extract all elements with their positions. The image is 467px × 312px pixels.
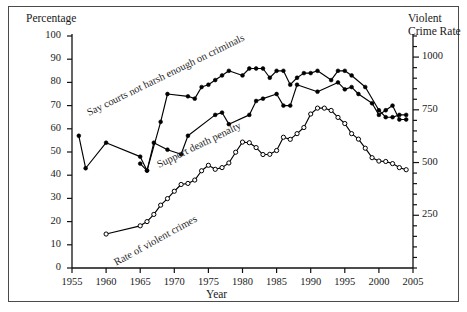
data-point xyxy=(179,182,183,186)
data-point xyxy=(84,166,88,170)
right-axis-tick-label: 500 xyxy=(422,156,458,167)
data-point xyxy=(166,92,170,96)
data-point xyxy=(145,169,149,173)
right-axis-tick-label: 1000 xyxy=(422,50,458,61)
data-point xyxy=(384,115,388,119)
data-point xyxy=(391,115,395,119)
data-point xyxy=(213,167,217,171)
data-point xyxy=(145,220,149,224)
data-point xyxy=(261,152,265,156)
data-point xyxy=(350,132,354,136)
right-axis-tick-label: 750 xyxy=(422,103,458,114)
data-point xyxy=(329,78,333,82)
left-axis-tick-label: 70 xyxy=(35,99,61,110)
data-point xyxy=(206,163,210,167)
data-point xyxy=(193,97,197,101)
data-point xyxy=(377,113,381,117)
data-point xyxy=(220,111,224,115)
data-point xyxy=(213,78,217,82)
data-point xyxy=(200,85,204,89)
left-axis-tick-label: 10 xyxy=(35,238,61,249)
left-axis-tick-label: 60 xyxy=(35,122,61,133)
data-point xyxy=(295,76,299,80)
data-point xyxy=(336,81,340,85)
data-point xyxy=(152,141,156,145)
data-point xyxy=(356,137,360,141)
data-point xyxy=(254,67,258,71)
axes-group xyxy=(67,34,419,273)
data-point xyxy=(302,125,306,129)
data-point xyxy=(186,134,190,138)
series-line xyxy=(79,68,406,170)
data-point xyxy=(343,87,347,91)
left-axis-tick-label: 80 xyxy=(35,75,61,86)
left-axis-tick-label: 0 xyxy=(35,261,61,272)
data-point xyxy=(261,97,265,101)
right-axis-tick-label: 250 xyxy=(422,208,458,219)
data-point xyxy=(275,69,279,73)
data-point xyxy=(316,69,320,73)
left-axis-tick-label: 30 xyxy=(35,191,61,202)
series-0 xyxy=(77,67,408,173)
data-point xyxy=(220,74,224,78)
data-point xyxy=(370,101,374,105)
data-point xyxy=(159,120,163,124)
data-point xyxy=(261,67,265,71)
data-point xyxy=(104,141,108,145)
series-2 xyxy=(104,106,408,236)
data-point xyxy=(172,189,176,193)
data-point xyxy=(241,74,245,78)
data-point xyxy=(220,166,224,170)
data-point xyxy=(138,155,142,159)
data-point xyxy=(213,113,217,117)
data-point xyxy=(138,224,142,228)
data-point xyxy=(295,83,299,87)
data-point xyxy=(329,108,333,112)
data-point xyxy=(104,232,108,236)
data-point xyxy=(186,181,190,185)
data-point xyxy=(336,115,340,119)
data-point xyxy=(363,85,367,89)
data-point xyxy=(404,118,408,122)
data-point xyxy=(268,152,272,156)
data-point xyxy=(275,148,279,152)
data-point xyxy=(166,148,170,152)
data-point xyxy=(227,161,231,165)
data-point xyxy=(186,94,190,98)
data-point xyxy=(384,159,388,163)
data-point xyxy=(309,112,313,116)
data-point xyxy=(350,74,354,78)
data-point xyxy=(288,83,292,87)
data-point xyxy=(282,104,286,108)
data-point xyxy=(165,197,169,201)
data-point xyxy=(302,71,306,75)
left-axis-tick-label: 100 xyxy=(35,29,61,40)
data-point xyxy=(268,76,272,80)
data-point xyxy=(390,162,394,166)
data-point xyxy=(254,99,258,103)
data-point xyxy=(234,150,238,154)
data-point xyxy=(288,137,292,141)
data-point xyxy=(240,140,244,144)
x-axis-tick-label: 2005 xyxy=(393,276,433,287)
data-point xyxy=(247,113,251,117)
data-point xyxy=(193,178,197,182)
data-point xyxy=(295,132,299,136)
data-point xyxy=(363,146,367,150)
left-axis-tick-label: 20 xyxy=(35,215,61,226)
data-point xyxy=(152,212,156,216)
series-line xyxy=(106,108,406,234)
data-point xyxy=(316,90,320,94)
data-point xyxy=(227,69,231,73)
data-point xyxy=(159,203,163,207)
data-point xyxy=(247,141,251,145)
data-point xyxy=(315,106,319,110)
data-point xyxy=(404,113,408,117)
data-point xyxy=(288,104,292,108)
data-point xyxy=(254,145,258,149)
data-point xyxy=(377,159,381,163)
data-point xyxy=(397,118,401,122)
data-point xyxy=(357,92,361,96)
data-point xyxy=(370,156,374,160)
data-point xyxy=(350,85,354,89)
